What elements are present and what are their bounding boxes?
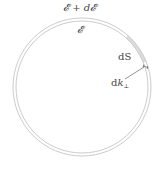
dk-subscript: ⊥ [123, 82, 129, 89]
normal-thickness-label: dk⊥ [111, 78, 129, 89]
area-element-label: dS [118, 52, 131, 62]
outer-surface-label: 𝓔 + d𝓔 [63, 3, 96, 13]
inner-surface-label: 𝓔 [77, 25, 83, 35]
